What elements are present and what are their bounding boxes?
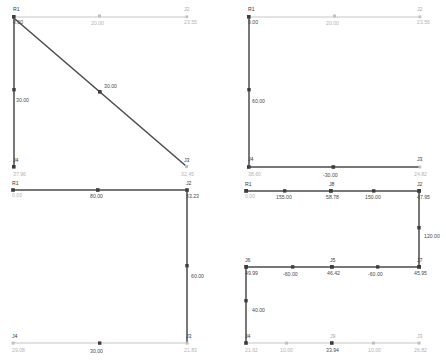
joint-J2[interactable] bbox=[417, 189, 421, 193]
diagram-grid: R1 0.00 J2 23.55 20.00 30.00 30.00 J4 37… bbox=[0, 0, 446, 363]
value-node-J9: 33.94 bbox=[326, 347, 339, 353]
node-marker-left-mid bbox=[247, 88, 250, 91]
node-marker-left-mid bbox=[12, 88, 15, 91]
joint-J4[interactable] bbox=[12, 342, 15, 345]
value-node-J2: 53.23 bbox=[186, 193, 199, 199]
node-marker-top-2 bbox=[372, 189, 375, 192]
label-node-J2: J2 bbox=[417, 6, 423, 12]
label-node-J3: J3 bbox=[186, 333, 192, 339]
value-node-J3: 24.82 bbox=[414, 171, 427, 177]
label-node-J8: J8 bbox=[329, 181, 335, 187]
node-marker-right-mid bbox=[417, 226, 420, 229]
node-marker-bottom-mid bbox=[98, 341, 101, 344]
value-node-J2: 23.56 bbox=[417, 19, 430, 25]
joint-J3[interactable] bbox=[419, 166, 422, 169]
label-node-J3: J3 bbox=[184, 157, 190, 163]
value-member-bottom-left: 10.00 bbox=[280, 347, 293, 353]
value-member-top-beam: 80.00 bbox=[90, 193, 103, 199]
node-marker-bottom-1 bbox=[285, 342, 288, 345]
value-node-J4: 29.08 bbox=[12, 347, 25, 353]
value-node-J4: 38.60 bbox=[248, 171, 261, 177]
label-node-J2: J2 bbox=[186, 180, 192, 186]
value-node-J4: 21.62 bbox=[245, 347, 258, 353]
value-member-top-beam: 20.00 bbox=[326, 20, 339, 26]
node-marker-top-mid bbox=[98, 15, 101, 18]
value-member-top-left: 155.00 bbox=[276, 194, 292, 200]
panel-bottom-left[interactable]: R1 0.00 80.00 J2 53.23 60.00 J4 29.08 30… bbox=[0, 180, 223, 363]
label-node-J5: J5 bbox=[330, 257, 336, 263]
joint-J3[interactable] bbox=[418, 342, 421, 345]
value-node-R1: 0.00 bbox=[12, 192, 22, 198]
value-node-J3: 32.45 bbox=[181, 171, 194, 177]
value-member-left-column: 60.00 bbox=[252, 98, 265, 104]
node-marker-mid-2 bbox=[376, 265, 379, 268]
value-node-J6: 49.99 bbox=[245, 270, 258, 276]
value-member-left-column: 30.00 bbox=[16, 97, 29, 103]
label-node-R1: R1 bbox=[248, 6, 255, 12]
joint-J2[interactable] bbox=[186, 15, 189, 18]
value-member-top-beam: 20.00 bbox=[91, 20, 104, 26]
label-node-R1: R1 bbox=[245, 181, 252, 187]
value-member-top-right: 150.00 bbox=[365, 194, 381, 200]
label-node-J4: J4 bbox=[13, 157, 19, 163]
value-node-J2: 47.95 bbox=[417, 194, 430, 200]
value-node-R1: 0.00 bbox=[13, 19, 23, 25]
node-marker-bottom-2 bbox=[372, 342, 375, 345]
panel-bottom-right[interactable]: R1 0.00 155.00 J8 58.78 150.00 J2 47.95 … bbox=[238, 180, 446, 363]
label-node-R1: R1 bbox=[12, 180, 19, 186]
value-member-right-column: 60.00 bbox=[191, 273, 204, 279]
value-node-J3: 21.83 bbox=[184, 347, 197, 353]
label-node-R1: R1 bbox=[13, 6, 20, 12]
value-node-J8: 58.78 bbox=[326, 194, 339, 200]
joint-J4[interactable] bbox=[12, 165, 16, 169]
node-marker-right-mid bbox=[185, 264, 188, 267]
label-node-J7: J7 bbox=[417, 257, 423, 263]
node-marker-diagonal-mid bbox=[98, 90, 102, 94]
joint-J7[interactable] bbox=[417, 265, 421, 269]
panel-top-left[interactable]: R1 0.00 J2 23.55 20.00 30.00 30.00 J4 37… bbox=[0, 0, 223, 182]
value-node-J2: 23.55 bbox=[184, 19, 197, 25]
value-node-J7: 45.95 bbox=[414, 270, 427, 276]
label-node-J4: J4 bbox=[245, 333, 251, 339]
label-node-J3: J3 bbox=[417, 156, 423, 162]
value-node-R1: 0.00 bbox=[245, 193, 255, 199]
value-node-J5: 46.42 bbox=[327, 270, 340, 276]
value-node-J4: 37.96 bbox=[13, 171, 26, 177]
joint-J3[interactable] bbox=[186, 342, 189, 345]
joint-J8[interactable] bbox=[329, 189, 333, 193]
value-node-J3: 26.82 bbox=[414, 347, 427, 353]
value-node-R1: 0.00 bbox=[248, 19, 258, 25]
value-member-left-column: 40.00 bbox=[252, 307, 265, 313]
joint-J4[interactable] bbox=[247, 165, 251, 169]
panel-top-right[interactable]: R1 0.00 J2 23.56 20.00 60.00 J4 38.60 -3… bbox=[238, 0, 446, 182]
label-node-J9: J9 bbox=[330, 333, 336, 339]
label-node-J2: J2 bbox=[184, 6, 190, 12]
label-node-J4: J4 bbox=[248, 156, 254, 162]
joint-J2[interactable] bbox=[419, 15, 422, 18]
node-marker-top-mid bbox=[96, 188, 100, 192]
joint-J5[interactable] bbox=[330, 265, 334, 269]
value-member-right-column: 120.00 bbox=[424, 233, 440, 239]
node-marker-left-mid bbox=[244, 299, 247, 302]
node-marker-mid-1 bbox=[291, 265, 294, 268]
node-marker-bottom-mid bbox=[332, 165, 336, 169]
label-node-J4: J4 bbox=[12, 333, 18, 339]
joint-J6[interactable] bbox=[244, 265, 248, 269]
joint-J3[interactable] bbox=[185, 165, 188, 168]
joint-J9[interactable] bbox=[330, 341, 334, 345]
value-member-bottom-right: 10.00 bbox=[368, 347, 381, 353]
label-node-J2: J2 bbox=[417, 181, 423, 187]
node-marker-top-1 bbox=[283, 189, 286, 192]
value-member-mid-right: -60.00 bbox=[368, 271, 383, 277]
joint-J4[interactable] bbox=[244, 341, 248, 345]
label-node-J3: J3 bbox=[417, 333, 423, 339]
value-member-mid-left: -60.00 bbox=[283, 271, 298, 277]
joint-J2[interactable] bbox=[185, 188, 189, 192]
value-member-diagonal: 30.00 bbox=[104, 83, 117, 89]
value-member-bottom-beam: -30.00 bbox=[323, 172, 338, 178]
value-member-bottom-beam: 30.00 bbox=[90, 348, 103, 354]
label-node-J6: J6 bbox=[245, 257, 251, 263]
node-marker-top-mid bbox=[333, 15, 336, 18]
